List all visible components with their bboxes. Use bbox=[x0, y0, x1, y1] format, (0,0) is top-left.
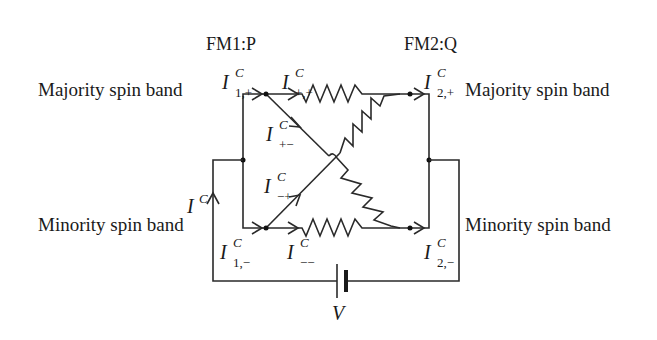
current-subscript: +,+ bbox=[295, 86, 313, 99]
current-total-label: IC bbox=[187, 196, 194, 216]
current-superscript: C bbox=[199, 192, 208, 205]
fm1-label: FM1:P bbox=[206, 34, 256, 55]
outer-loop-left bbox=[213, 160, 337, 281]
current-superscript: C bbox=[233, 236, 242, 249]
current-i-plus-plus-label: IC+,+ bbox=[282, 72, 289, 92]
junction-dot-bottom-right bbox=[408, 226, 413, 231]
resistor-minus-plus bbox=[340, 94, 400, 153]
fm2-right-vertical-wire bbox=[400, 94, 429, 228]
current-superscript: C bbox=[437, 66, 446, 79]
fm1-left-vertical-wire bbox=[243, 94, 266, 228]
current-i2-plus-label: IC2,+ bbox=[424, 72, 431, 92]
current-superscript: C bbox=[279, 118, 288, 131]
current-symbol: I bbox=[282, 71, 289, 93]
resistor-plus-minus bbox=[337, 158, 400, 228]
current-symbol: I bbox=[220, 241, 227, 263]
current-subscript: 1,+ bbox=[235, 86, 252, 99]
current-symbol: I bbox=[264, 175, 271, 197]
current-subscript: −− bbox=[300, 256, 315, 269]
current-i2-minus-label: IC2,− bbox=[424, 242, 431, 262]
current-superscript: C bbox=[277, 170, 286, 183]
current-symbol: I bbox=[287, 241, 294, 263]
circuit-drawing bbox=[0, 0, 657, 340]
current-i-plus-minus-label: IC+− bbox=[266, 124, 273, 144]
current-subscript: 2,− bbox=[437, 256, 454, 269]
right-minority-band-label: Minority spin band bbox=[465, 214, 611, 236]
current-symbol: I bbox=[424, 71, 431, 93]
current-symbol: I bbox=[424, 241, 431, 263]
current-i1-minus-label: IC1,− bbox=[220, 242, 227, 262]
current-i-minus-minus-label: IC−− bbox=[287, 242, 294, 262]
current-i1-plus-label: IC1,+ bbox=[222, 72, 229, 92]
spin-resistor-circuit-diagram: FM1:P FM2:Q Majority spin band Majority … bbox=[0, 0, 657, 340]
current-superscript: C bbox=[295, 66, 304, 79]
current-i-minus-plus-label: IC−+ bbox=[264, 176, 271, 196]
current-subscript: 1,− bbox=[233, 256, 250, 269]
junction-dot-top-left bbox=[264, 92, 269, 97]
junction-dot-bottom-left bbox=[264, 226, 269, 231]
current-superscript: C bbox=[235, 66, 244, 79]
fm2-label: FM2:Q bbox=[404, 34, 457, 55]
junction-dot-top-right bbox=[408, 92, 413, 97]
current-symbol: I bbox=[222, 71, 229, 93]
left-minority-band-label: Minority spin band bbox=[38, 214, 184, 236]
current-symbol: I bbox=[187, 195, 194, 217]
current-superscript: C bbox=[437, 236, 446, 249]
current-subscript: −+ bbox=[277, 190, 292, 203]
right-majority-band-label: Majority spin band bbox=[465, 79, 610, 101]
battery-voltage-label: V bbox=[332, 303, 344, 323]
current-symbol: I bbox=[266, 123, 273, 145]
current-subscript: +− bbox=[279, 138, 294, 151]
current-subscript: 2,+ bbox=[437, 86, 454, 99]
left-majority-band-label: Majority spin band bbox=[38, 79, 183, 101]
current-superscript: C bbox=[300, 236, 309, 249]
